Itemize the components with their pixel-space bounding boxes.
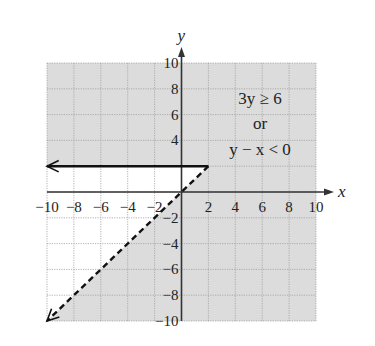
x-tick-label: −4: [120, 199, 136, 215]
y-tick-label: −4: [163, 236, 179, 252]
y-tick-label: −10: [155, 313, 178, 329]
annotation-line-3: y − x < 0: [229, 140, 291, 159]
y-tick-label: −6: [163, 261, 179, 277]
x-tick-label: 10: [309, 199, 324, 215]
annotation-line-1: 3y ≥ 6: [238, 89, 281, 108]
y-axis-arrow-icon: [178, 47, 185, 57]
annotation-line-2: or: [253, 114, 268, 133]
x-tick-label: −6: [93, 199, 109, 215]
x-tick-label: −10: [35, 199, 58, 215]
y-axis-label: y: [176, 26, 186, 45]
y-tick-label: −2: [163, 210, 179, 226]
y-tick-label: −8: [163, 287, 179, 303]
y-tick-label: 8: [171, 81, 179, 97]
x-axis-arrow-icon: [324, 189, 334, 196]
x-tick-label: −8: [66, 199, 82, 215]
y-tick-label: 6: [171, 107, 179, 123]
x-tick-label: 8: [285, 199, 293, 215]
x-axis-label: x: [337, 182, 346, 201]
y-tick-label: 10: [164, 55, 179, 71]
x-tick-label: 4: [232, 199, 240, 215]
x-tick-label: −2: [147, 199, 163, 215]
x-tick-label: 6: [258, 199, 266, 215]
inequality-graph: x y −10−8−6−4−224681010864−2−4−6−8−10 3y…: [0, 0, 375, 346]
x-tick-label: 2: [205, 199, 213, 215]
y-tick-label: 4: [171, 132, 179, 148]
